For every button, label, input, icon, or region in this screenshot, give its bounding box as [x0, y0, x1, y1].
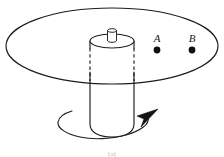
figure-caption-mark: (a) [108, 150, 116, 157]
rotating-disk-figure: A B (a) [0, 0, 224, 157]
knob-top-cap-ellipse [108, 29, 117, 33]
figure-root: A B (a) [0, 0, 224, 157]
cylinder-lower-body [90, 70, 134, 137]
cylinder-lower-group [90, 70, 134, 137]
knob-group [108, 29, 117, 43]
rotation-arrowhead-icon [137, 109, 158, 127]
point-a-dot [154, 47, 161, 54]
point-b-group: B [189, 32, 196, 53]
point-b-dot [189, 47, 196, 54]
point-b-label: B [189, 32, 196, 44]
point-a-group: A [153, 32, 161, 53]
point-a-label: A [153, 32, 161, 44]
